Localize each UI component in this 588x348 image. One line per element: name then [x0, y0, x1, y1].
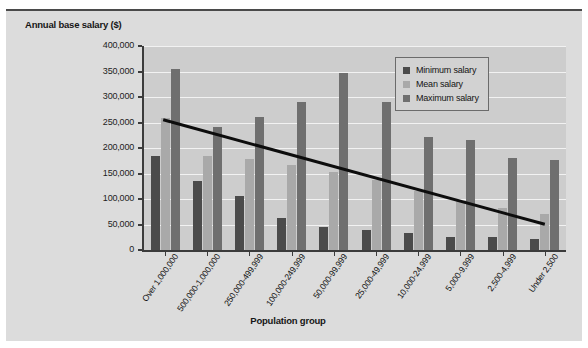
bar-maximum-salary[interactable] — [466, 140, 475, 250]
legend-item[interactable]: Mean salary — [403, 77, 479, 91]
y-axis-tick-label: 350,000 — [72, 66, 134, 76]
y-axis-tick — [138, 147, 142, 149]
bar-group — [524, 46, 566, 250]
bar-maximum-salary[interactable] — [255, 117, 264, 250]
y-axis-tick-label: 50,000 — [72, 219, 134, 229]
bar-group — [355, 46, 397, 250]
y-axis-title: Annual base salary ($) — [25, 19, 121, 30]
bar-minimum-salary[interactable] — [488, 237, 497, 250]
legend-item-label: Minimum salary — [416, 65, 476, 75]
bar-minimum-salary[interactable] — [151, 156, 160, 250]
y-axis-tick-label: 200,000 — [72, 142, 134, 152]
legend-swatch-minimum — [403, 67, 410, 74]
bar-group — [228, 46, 270, 250]
legend-swatch-maximum — [403, 95, 410, 102]
x-axis-title: Population group — [0, 315, 576, 326]
y-axis-tick-label: 0 — [72, 244, 134, 254]
y-axis-tick — [138, 45, 142, 47]
y-axis-tick — [138, 198, 142, 200]
y-axis-tick — [138, 173, 142, 175]
y-axis-tick — [138, 224, 142, 226]
bar-maximum-salary[interactable] — [382, 102, 391, 250]
bar-minimum-salary[interactable] — [446, 237, 455, 250]
bar-maximum-salary[interactable] — [171, 69, 180, 250]
bar-maximum-salary[interactable] — [339, 73, 348, 250]
bar-group — [144, 46, 186, 250]
plot-inner — [144, 46, 566, 250]
bar-maximum-salary[interactable] — [297, 102, 306, 250]
y-axis-tick-label: 300,000 — [72, 91, 134, 101]
x-axis-tick-labels: Over 1,000,000500,000-1,000,000250,000-4… — [142, 252, 566, 322]
bar-group — [186, 46, 228, 250]
y-axis-tick — [138, 249, 142, 251]
y-axis-tick — [138, 71, 142, 73]
bar-maximum-salary[interactable] — [213, 127, 222, 250]
y-axis-tick-labels: 050,000100,000150,000200,000250,000300,0… — [72, 46, 134, 250]
legend-item[interactable]: Maximum salary — [403, 91, 479, 105]
chart-figure: Annual base salary ($) 050,000100,000150… — [0, 0, 588, 348]
y-axis-tick-label: 250,000 — [72, 117, 134, 127]
chart-legend: Minimum salaryMean salaryMaximum salary — [395, 57, 489, 111]
legend-item-label: Mean salary — [416, 79, 463, 89]
bar-maximum-salary[interactable] — [550, 160, 559, 250]
y-axis-tick-label: 150,000 — [72, 168, 134, 178]
bar-mean-salary[interactable] — [540, 214, 549, 250]
legend-swatch-mean — [403, 81, 410, 88]
y-axis-tick — [138, 96, 142, 98]
bar-mean-salary[interactable] — [203, 156, 212, 250]
bar-maximum-salary[interactable] — [508, 158, 517, 250]
bar-mean-salary[interactable] — [498, 208, 507, 250]
y-axis-tick-label: 400,000 — [72, 40, 134, 50]
y-axis-tick-label: 100,000 — [72, 193, 134, 203]
legend-item[interactable]: Minimum salary — [403, 63, 479, 77]
legend-item-label: Maximum salary — [416, 93, 479, 103]
y-axis-tick — [138, 122, 142, 124]
bar-minimum-salary[interactable] — [530, 239, 539, 250]
bar-mean-salary[interactable] — [161, 118, 170, 250]
bar-maximum-salary[interactable] — [424, 137, 433, 250]
bar-mean-salary[interactable] — [456, 201, 465, 250]
